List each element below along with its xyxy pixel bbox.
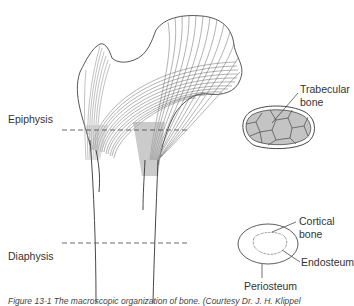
trabecular-bone-label-line1: Trabecular (300, 83, 350, 96)
endosteum-label: Endosteum (301, 256, 354, 269)
diaphysis-label: Diaphysis (8, 250, 54, 263)
periosteum-label: Periosteum (244, 280, 297, 293)
cortical-bone-label-line1: Cortical (299, 215, 335, 228)
figure-caption: Figure 13-1 The macroscopic organization… (8, 296, 301, 306)
cortical-cross-section (238, 222, 300, 278)
trabecular-lines-head (150, 15, 240, 160)
trabecular-bone-label-line2: bone (300, 96, 323, 109)
cortical-bone-label-line2: bone (299, 228, 322, 241)
epiphysis-label: Epiphysis (8, 113, 53, 126)
